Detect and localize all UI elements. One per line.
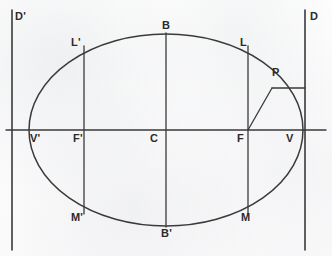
label-p: P <box>272 67 280 78</box>
label-l: L <box>240 37 247 48</box>
label-m: M <box>241 212 250 223</box>
label-f-prime: F' <box>73 133 83 144</box>
label-d-prime: D' <box>15 11 26 22</box>
label-l-prime: L' <box>71 37 81 48</box>
label-f: F <box>237 133 244 144</box>
label-b: B <box>162 20 170 31</box>
label-v: V <box>286 133 294 144</box>
label-d: D <box>310 11 318 22</box>
label-c: C <box>150 133 158 144</box>
ellipse-diagram-canvas <box>0 0 332 256</box>
label-b-prime: B' <box>161 228 172 239</box>
label-m-prime: M' <box>71 212 83 223</box>
ellipse-diagram-figure: D' D B B' L' L M' M V' V F' F C P <box>0 0 332 256</box>
label-v-prime: V' <box>30 133 40 144</box>
focal-radius-pf <box>248 88 272 130</box>
